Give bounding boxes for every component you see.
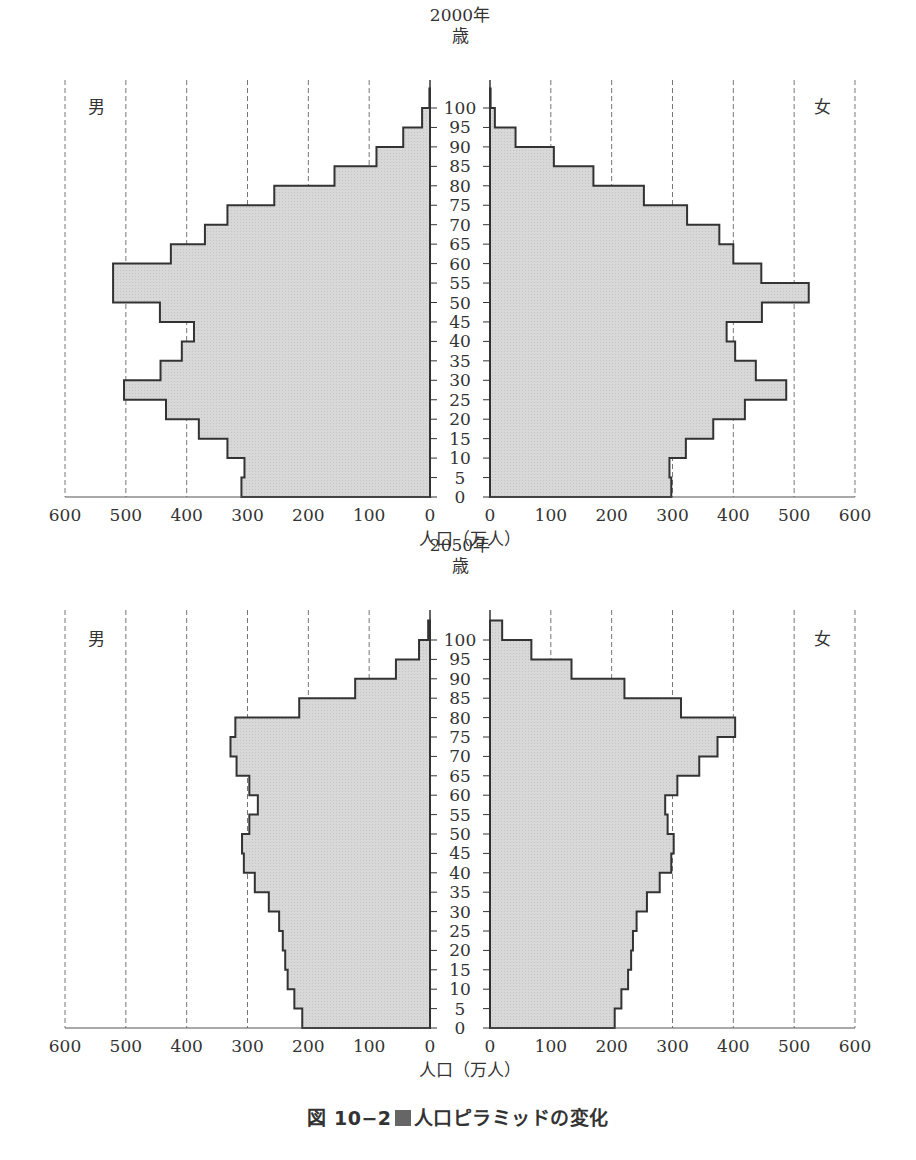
svg-text:80: 80 xyxy=(449,708,471,728)
pyramid-2000: 0510152025303540455055606570758085909510… xyxy=(0,0,916,550)
svg-text:300: 300 xyxy=(656,505,688,525)
svg-text:85: 85 xyxy=(449,688,471,708)
svg-text:55: 55 xyxy=(449,273,471,293)
male-bars xyxy=(113,89,430,497)
chart-year-title: 2000年 xyxy=(430,5,490,25)
svg-text:200: 200 xyxy=(292,505,324,525)
svg-text:600: 600 xyxy=(49,1036,81,1056)
svg-text:75: 75 xyxy=(449,195,471,215)
caption-prefix: 図 10−2 xyxy=(307,1107,391,1129)
svg-text:55: 55 xyxy=(449,805,471,825)
svg-text:400: 400 xyxy=(717,505,749,525)
svg-text:100: 100 xyxy=(353,1036,385,1056)
svg-text:200: 200 xyxy=(292,1036,324,1056)
female-label: 女 xyxy=(814,629,831,649)
svg-text:20: 20 xyxy=(449,940,471,960)
svg-text:70: 70 xyxy=(449,746,471,766)
svg-text:500: 500 xyxy=(110,505,142,525)
svg-text:40: 40 xyxy=(449,863,471,883)
svg-text:100: 100 xyxy=(535,1036,567,1056)
chart-year-title: 2050年 xyxy=(430,535,490,555)
svg-text:65: 65 xyxy=(449,766,471,786)
svg-text:15: 15 xyxy=(449,429,471,449)
svg-text:75: 75 xyxy=(449,727,471,747)
svg-text:40: 40 xyxy=(449,331,471,351)
age-unit-label: 歳 xyxy=(452,26,469,46)
svg-text:200: 200 xyxy=(595,1036,627,1056)
caption-text: 人口ピラミッドの変化 xyxy=(414,1107,609,1129)
svg-text:0: 0 xyxy=(455,1018,466,1038)
svg-text:400: 400 xyxy=(170,505,202,525)
svg-text:95: 95 xyxy=(449,117,471,137)
svg-text:500: 500 xyxy=(778,505,810,525)
svg-text:600: 600 xyxy=(49,505,81,525)
svg-text:10: 10 xyxy=(449,979,471,999)
svg-text:100: 100 xyxy=(535,505,567,525)
svg-text:30: 30 xyxy=(449,370,471,390)
svg-text:500: 500 xyxy=(778,1036,810,1056)
svg-text:25: 25 xyxy=(449,921,471,941)
female-bars xyxy=(490,89,809,497)
svg-text:10: 10 xyxy=(449,448,471,468)
population-axis: 00100100200200300300400400500500600600 xyxy=(49,1036,871,1056)
svg-text:100: 100 xyxy=(444,98,476,118)
svg-text:15: 15 xyxy=(449,960,471,980)
svg-text:200: 200 xyxy=(595,505,627,525)
svg-text:95: 95 xyxy=(449,649,471,669)
svg-text:35: 35 xyxy=(449,882,471,902)
svg-text:70: 70 xyxy=(449,215,471,235)
svg-text:0: 0 xyxy=(425,505,436,525)
svg-text:600: 600 xyxy=(839,505,871,525)
age-axis: 0510152025303540455055606570758085909510… xyxy=(430,630,490,1038)
svg-text:0: 0 xyxy=(455,487,466,507)
svg-text:600: 600 xyxy=(839,1036,871,1056)
figure-caption: 図 10−2人口ピラミッドの変化 xyxy=(0,1103,916,1130)
female-bars xyxy=(490,621,735,1028)
svg-text:65: 65 xyxy=(449,234,471,254)
svg-text:50: 50 xyxy=(449,824,471,844)
svg-text:5: 5 xyxy=(455,999,466,1019)
svg-text:25: 25 xyxy=(449,390,471,410)
svg-text:400: 400 xyxy=(170,1036,202,1056)
age-axis: 0510152025303540455055606570758085909510… xyxy=(430,98,490,507)
svg-text:90: 90 xyxy=(449,137,471,157)
svg-text:50: 50 xyxy=(449,293,471,313)
pyramid-2000-plot: 0510152025303540455055606570758085909510… xyxy=(0,0,916,550)
svg-text:20: 20 xyxy=(449,409,471,429)
svg-text:300: 300 xyxy=(231,1036,263,1056)
x-axis-label: 人口（万人） xyxy=(419,1060,521,1080)
svg-text:5: 5 xyxy=(455,468,466,488)
pyramid-2050-plot: 0510152025303540455055606570758085909510… xyxy=(0,530,916,1090)
population-axis: 00100100200200300300400400500500600600 xyxy=(49,505,871,525)
svg-text:0: 0 xyxy=(485,505,496,525)
male-label: 男 xyxy=(88,97,105,117)
svg-text:60: 60 xyxy=(449,785,471,805)
female-label: 女 xyxy=(814,97,831,117)
svg-text:90: 90 xyxy=(449,669,471,689)
svg-text:85: 85 xyxy=(449,156,471,176)
pyramid-2050: 0510152025303540455055606570758085909510… xyxy=(0,530,916,1090)
square-bullet-icon xyxy=(395,1110,411,1126)
svg-text:35: 35 xyxy=(449,351,471,371)
svg-text:300: 300 xyxy=(656,1036,688,1056)
svg-text:0: 0 xyxy=(485,1036,496,1056)
svg-text:500: 500 xyxy=(110,1036,142,1056)
svg-text:400: 400 xyxy=(717,1036,749,1056)
male-label: 男 xyxy=(88,629,105,649)
svg-text:0: 0 xyxy=(425,1036,436,1056)
svg-text:60: 60 xyxy=(449,254,471,274)
age-unit-label: 歳 xyxy=(452,556,469,576)
svg-text:45: 45 xyxy=(449,312,471,332)
svg-text:100: 100 xyxy=(444,630,476,650)
svg-text:300: 300 xyxy=(231,505,263,525)
svg-text:30: 30 xyxy=(449,902,471,922)
male-bars xyxy=(230,621,430,1028)
svg-text:80: 80 xyxy=(449,176,471,196)
svg-text:45: 45 xyxy=(449,843,471,863)
svg-text:100: 100 xyxy=(353,505,385,525)
